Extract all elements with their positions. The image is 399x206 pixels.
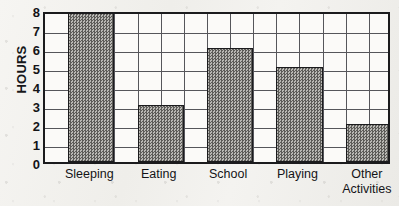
plot-inner bbox=[45, 14, 388, 162]
y-axis-tick-label: 1 bbox=[22, 139, 40, 152]
grid-line-vertical bbox=[184, 14, 185, 162]
grid-line-vertical bbox=[323, 14, 324, 162]
x-axis-tick-label: Playing bbox=[277, 167, 318, 182]
bar bbox=[207, 48, 253, 162]
plot-area bbox=[43, 12, 390, 164]
bar bbox=[276, 67, 322, 162]
bar bbox=[346, 124, 388, 162]
bar-chart: HOURS 012345678 SleepingEatingSchoolPlay… bbox=[0, 0, 399, 206]
x-axis-tick-label: School bbox=[209, 167, 247, 182]
x-axis-tick-label: Sleeping bbox=[65, 167, 114, 182]
bar bbox=[138, 105, 184, 162]
y-axis-tick-labels: 012345678 bbox=[22, 12, 40, 164]
x-axis-tick-labels: SleepingEatingSchoolPlayingOther Activit… bbox=[43, 167, 390, 205]
y-axis-tick-label: 5 bbox=[22, 63, 40, 76]
y-axis-tick-label: 8 bbox=[22, 6, 40, 19]
y-axis-tick-label: 6 bbox=[22, 44, 40, 57]
x-axis-tick-label: Eating bbox=[141, 167, 176, 182]
bar bbox=[68, 14, 114, 162]
y-axis-tick-label: 4 bbox=[22, 82, 40, 95]
x-axis-tick-label: Other Activities bbox=[342, 167, 391, 197]
y-axis-tick-label: 7 bbox=[22, 25, 40, 38]
y-axis-tick-label: 3 bbox=[22, 101, 40, 114]
y-axis-tick-label: 0 bbox=[22, 158, 40, 171]
y-axis-tick-label: 2 bbox=[22, 120, 40, 133]
